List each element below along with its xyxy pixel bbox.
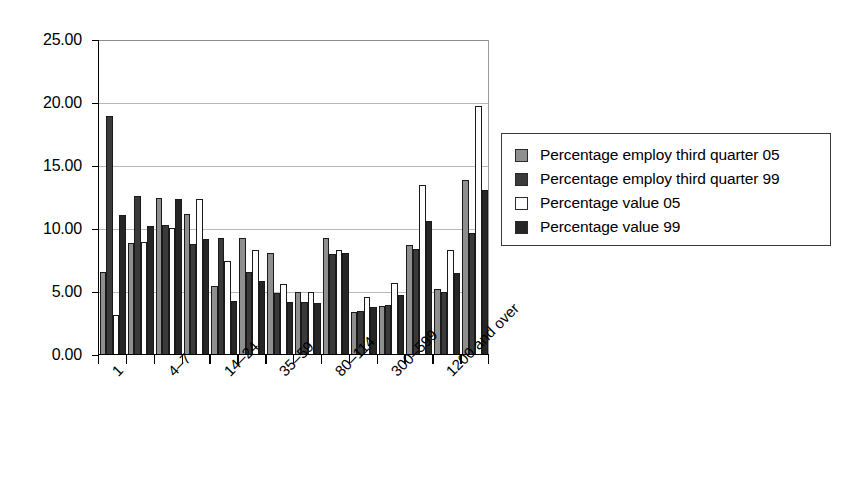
legend-item: Percentage employ third quarter 05 <box>515 143 830 167</box>
bar-group <box>184 40 210 355</box>
legend-label-series-0: Percentage employ third quarter 05 <box>540 147 780 163</box>
bar-group <box>323 40 349 355</box>
legend-swatch-series-2 <box>515 197 528 210</box>
bar-group <box>462 40 488 355</box>
legend-swatch-series-1 <box>515 173 528 186</box>
legend-item: Percentage value 05 <box>515 191 830 215</box>
y-axis-tick-label: 20.00 <box>43 95 82 111</box>
bar-group <box>100 40 126 355</box>
y-axis-tick-label: 0.00 <box>52 347 82 363</box>
x-axis-tick-mark <box>432 355 433 364</box>
x-axis-tick-mark <box>321 355 322 364</box>
bar-group <box>211 40 237 355</box>
bar-group <box>267 40 293 355</box>
legend-swatch-series-0 <box>515 149 528 162</box>
bar <box>314 303 320 355</box>
y-axis: 0.005.0010.0015.0020.0025.00 <box>0 0 88 340</box>
plot-wrapper: 0.005.0010.0015.0020.0025.00 14–714–2435… <box>0 0 500 380</box>
x-axis-tick-mark <box>98 355 99 364</box>
x-axis-tick-mark <box>126 355 127 364</box>
plot-area <box>98 40 489 355</box>
x-axis-tick-mark <box>377 355 378 364</box>
bar <box>147 226 153 355</box>
x-axis-tick-mark <box>209 355 210 364</box>
bar-group <box>351 40 377 355</box>
legend-label-series-1: Percentage employ third quarter 99 <box>540 171 780 187</box>
bar-group <box>239 40 265 355</box>
y-axis-tick-label: 25.00 <box>43 32 82 48</box>
bar-group <box>128 40 154 355</box>
bar <box>175 199 181 355</box>
bar <box>398 295 404 355</box>
bars-layer <box>99 40 489 355</box>
x-axis-tick-mark <box>488 355 489 364</box>
bar <box>287 302 293 355</box>
legend-item: Percentage employ third quarter 99 <box>515 167 830 191</box>
legend-label-series-3: Percentage value 99 <box>540 219 680 235</box>
bar-group <box>379 40 405 355</box>
bar <box>454 273 460 355</box>
bar <box>342 253 348 355</box>
bar <box>119 215 125 355</box>
bar <box>203 239 209 355</box>
bar-group <box>434 40 460 355</box>
chart-figure: 0.005.0010.0015.0020.0025.00 14–714–2435… <box>0 0 862 496</box>
legend-label-series-2: Percentage value 05 <box>540 195 680 211</box>
legend-swatch-series-3 <box>515 221 528 234</box>
y-axis-tick-label: 5.00 <box>52 284 82 300</box>
bar <box>259 281 265 355</box>
bar-group <box>295 40 321 355</box>
x-axis-tick-mark <box>154 355 155 364</box>
y-axis-tick-label: 15.00 <box>43 158 82 174</box>
y-axis-tick-label: 10.00 <box>43 221 82 237</box>
x-axis-tick-mark <box>265 355 266 364</box>
bar <box>231 301 237 355</box>
chart-legend: Percentage employ third quarter 05 Perce… <box>501 133 831 246</box>
bar-group <box>156 40 182 355</box>
bar-group <box>406 40 432 355</box>
legend-item: Percentage value 99 <box>515 215 830 239</box>
